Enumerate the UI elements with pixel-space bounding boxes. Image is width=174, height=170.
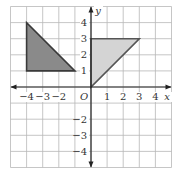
y-tick-label: 2 <box>81 49 87 60</box>
x-tick-label: 3 <box>136 91 142 102</box>
x-tick-label: −3 <box>35 91 50 102</box>
x-tick-label: −2 <box>51 91 66 102</box>
x-arrow-left-icon <box>11 85 17 90</box>
coordinate-plane: −4−3−212344321−2−3−4Oxy <box>0 0 174 170</box>
y-arrow-down-icon <box>89 162 94 168</box>
x-tick-label: 2 <box>120 91 126 102</box>
y-tick-label: −2 <box>72 114 87 125</box>
x-arrow-right-icon <box>166 85 172 90</box>
y-tick-label: 1 <box>81 65 87 76</box>
y-tick-label: 3 <box>81 33 87 44</box>
y-tick-label: 4 <box>81 17 87 28</box>
x-tick-label: 1 <box>104 91 110 102</box>
x-tick-label: 4 <box>152 91 158 102</box>
y-axis-label: y <box>94 5 101 16</box>
x-tick-label: −4 <box>19 91 34 102</box>
origin-label: O <box>80 91 88 102</box>
light-triangle <box>91 39 139 87</box>
y-tick-label: −3 <box>72 130 87 141</box>
y-tick-label: −4 <box>72 146 87 157</box>
y-arrow-up-icon <box>89 7 94 13</box>
x-axis-label: x <box>164 91 170 102</box>
dark-triangle <box>27 23 75 71</box>
